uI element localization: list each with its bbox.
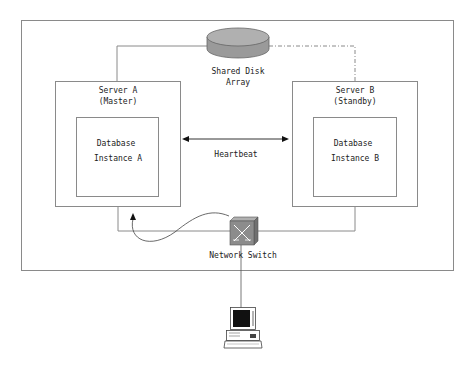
cluster-diagram [0, 0, 472, 367]
server-b-disk-link [269, 46, 355, 81]
database-instance-b-line1: Database [311, 136, 395, 151]
server-a-title-line2: (Master) [78, 96, 158, 107]
database-instance-b-line2: Instance B [315, 151, 395, 166]
client-computer-icon [224, 308, 262, 349]
network-switch-label: Network Switch [193, 250, 293, 261]
network-switch-icon [230, 217, 258, 245]
heartbeat-arrow [182, 136, 289, 142]
server-a-disk-link [117, 46, 208, 81]
server-b-title-line1: Server B [315, 85, 395, 96]
client-to-server-a-arrow [130, 213, 229, 241]
server-b-title-line2: (Standby) [315, 96, 395, 107]
server-a-title-line1: Server A [78, 85, 158, 96]
database-instance-a-line2: Instance A [78, 151, 158, 166]
database-instance-a-line1: Database [74, 136, 158, 151]
database-instance-b-label: Database Instance B [315, 136, 395, 166]
server-b-title: Server B (Standby) [315, 85, 395, 107]
shared-disk-label-line1: Shared Disk [198, 66, 278, 77]
server-b-network-link [255, 206, 355, 231]
shared-disk-icon [207, 28, 269, 58]
server-a-title: Server A (Master) [78, 85, 158, 107]
shared-disk-label-line2: Array [198, 77, 278, 88]
shared-disk-label: Shared Disk Array [198, 66, 278, 88]
heartbeat-label: Heartbeat [196, 149, 276, 160]
database-instance-a-label: Database Instance A [78, 136, 158, 166]
